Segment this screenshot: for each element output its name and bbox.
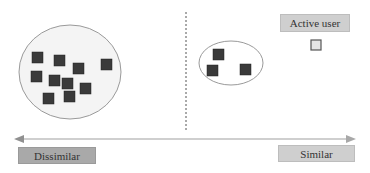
- dissimilar-label: Dissimilar: [18, 147, 96, 164]
- axis-arrow-right-icon: [346, 135, 356, 143]
- user-square: [43, 93, 54, 104]
- active-user-square: [311, 40, 321, 50]
- user-square: [64, 91, 75, 102]
- user-square: [240, 64, 251, 75]
- active-user-label: Active user: [280, 14, 350, 32]
- user-square: [207, 65, 218, 76]
- user-square: [213, 49, 224, 60]
- user-square: [31, 71, 42, 82]
- user-square: [73, 63, 84, 74]
- user-square: [54, 55, 65, 66]
- user-square: [32, 52, 43, 63]
- user-square: [80, 83, 91, 94]
- user-square: [101, 59, 112, 70]
- user-square: [62, 78, 73, 89]
- axis-arrow-left-icon: [14, 135, 24, 143]
- user-square: [49, 75, 60, 86]
- similar-cluster-outline: [199, 41, 263, 85]
- similar-label: Similar: [278, 145, 355, 162]
